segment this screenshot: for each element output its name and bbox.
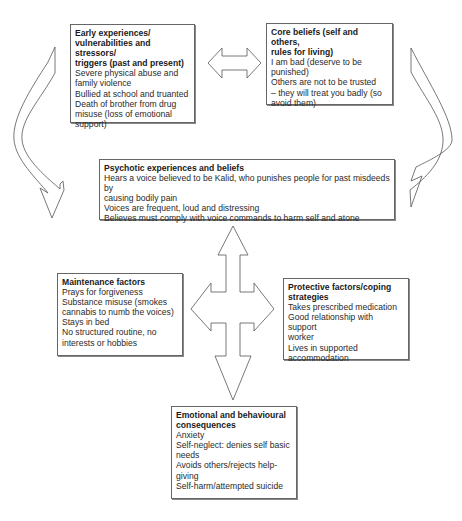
- box-item: Lives in supported: [288, 343, 404, 353]
- box-item: Death of brother from drug: [75, 99, 190, 109]
- box-item: Believes must comply with voice commands…: [104, 213, 390, 223]
- box-item: Good relationship with support: [288, 312, 404, 332]
- box-item: Prays for forgiveness: [62, 287, 178, 297]
- box-item: accommodation: [288, 353, 404, 363]
- box-title: strategies: [288, 292, 404, 302]
- emotional-consequences-box: Emotional and behavioural consequences A…: [171, 406, 297, 499]
- box-title: Maintenance factors: [62, 277, 178, 287]
- box-item: needs: [176, 450, 292, 460]
- box-item: cannabis to numb the voices): [62, 307, 178, 317]
- box-item: causing bodily pain: [104, 193, 390, 203]
- box-title: Core beliefs (self and others,: [271, 27, 388, 47]
- box-title: Psychotic experiences and beliefs: [104, 163, 390, 173]
- box-item: interests or hobbies: [62, 338, 178, 348]
- four-way-arrow: [191, 226, 274, 400]
- box-item: misuse (loss of emotional: [75, 109, 190, 119]
- box-item: avoid them): [271, 98, 388, 108]
- box-title: Emotional and behavioural: [176, 410, 292, 420]
- box-title: Early experiences/: [75, 28, 190, 38]
- box-title: Protective factors/coping: [288, 282, 404, 292]
- maintenance-factors-box: Maintenance factors Prays for forgivenes…: [57, 273, 183, 356]
- box-item: giving: [176, 471, 292, 481]
- box-item: Takes prescribed medication: [288, 302, 404, 312]
- box-item: worker: [288, 332, 404, 342]
- double-arrow-early-core: [208, 48, 261, 78]
- box-item: support): [75, 119, 190, 129]
- box-item: Anxiety: [176, 430, 292, 440]
- box-item: punished): [271, 67, 388, 77]
- box-item: Substance misuse (smokes: [62, 297, 178, 307]
- box-title: consequences: [176, 420, 292, 430]
- protective-factors-box: Protective factors/coping strategies Tak…: [283, 278, 409, 360]
- box-item: – they will treat you badly (so: [271, 88, 388, 98]
- box-item: Hears a voice believed to be Kalid, who …: [104, 173, 390, 193]
- box-title: triggers (past and present): [75, 58, 190, 68]
- box-item: Others are not to be trusted: [271, 77, 388, 87]
- box-item: family violence: [75, 78, 190, 88]
- core-beliefs-box: Core beliefs (self and others, rules for…: [266, 23, 393, 105]
- box-item: Self-neglect: denies self basic: [176, 440, 292, 450]
- box-item: Self-harm/attempted suicide: [176, 481, 292, 491]
- box-item: Stays in bed: [62, 317, 178, 327]
- box-title: vulnerabilities and stressors/: [75, 38, 190, 58]
- box-item: I am bad (deserve to be: [271, 57, 388, 67]
- curved-arrow-right: [410, 48, 452, 207]
- curved-arrow-left: [14, 47, 64, 218]
- box-title: rules for living): [271, 47, 388, 57]
- early-experiences-box: Early experiences/ vulnerabilities and s…: [70, 24, 195, 123]
- box-item: Severe physical abuse and: [75, 68, 190, 78]
- psychotic-experiences-box: Psychotic experiences and beliefs Hears …: [99, 159, 395, 220]
- box-item: Voices are frequent, loud and distressin…: [104, 203, 390, 213]
- box-item: No structured routine, no: [62, 327, 178, 337]
- box-item: Bullied at school and truanted: [75, 89, 190, 99]
- box-item: Avoids others/rejects help-: [176, 460, 292, 470]
